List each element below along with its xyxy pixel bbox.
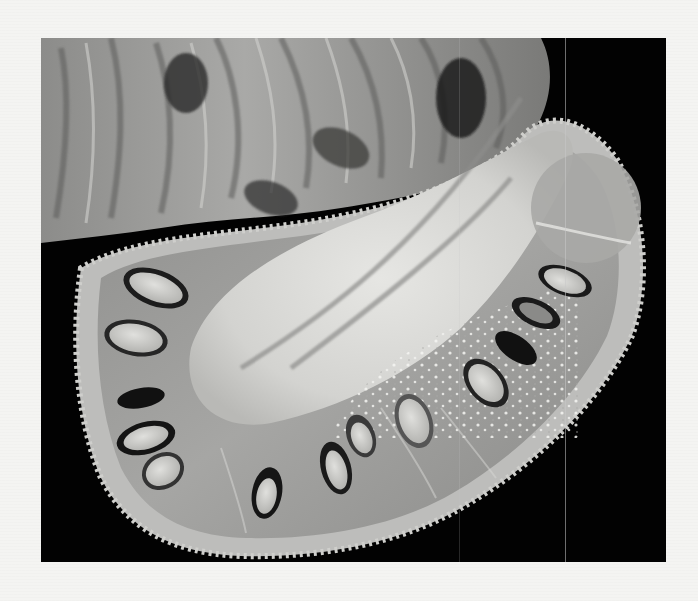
page: Black-and-white photograph of a jackfrui… (0, 0, 698, 601)
jackfruit-illustration (41, 38, 666, 562)
scan-artifact-line (565, 38, 566, 562)
jackfruit-photo (41, 38, 666, 562)
scan-artifact-line (459, 38, 460, 562)
